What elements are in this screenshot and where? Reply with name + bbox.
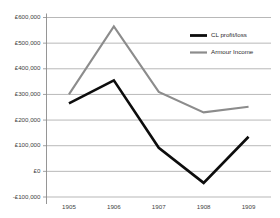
x-tick-label: 1905: [62, 203, 76, 210]
y-tick-label: £600,000: [15, 13, 41, 20]
x-tick-label: 1908: [197, 203, 211, 210]
y-tick-label: £400,000: [15, 64, 41, 71]
y-tick-label: £500,000: [15, 39, 41, 46]
legend-label-2: Armour Income: [211, 48, 254, 55]
x-tick-label: 1906: [107, 203, 121, 210]
legend-label-1: CL profit/loss: [211, 31, 247, 38]
y-tick-label: £300,000: [15, 90, 41, 97]
y-tick-label: £0: [34, 167, 41, 174]
series-line-cl-profit-loss: [69, 80, 249, 183]
x-tick-label: 1907: [152, 203, 166, 210]
y-tick-label: £200,000: [15, 116, 41, 123]
line-chart: £600,000£500,000£400,000£300,000£200,000…: [0, 0, 280, 218]
series-line-armour-income: [69, 26, 249, 112]
x-tick-label: 1909: [242, 203, 256, 210]
y-axis-tick-labels: £600,000£500,000£400,000£300,000£200,000…: [13, 13, 41, 200]
axis-tickmarks: [43, 18, 47, 198]
y-tick-label: £100,000: [15, 141, 41, 148]
x-axis-tick-labels: 19051906190719081909: [62, 203, 256, 210]
y-tick-label: -£100,000: [13, 193, 41, 200]
chart-container: £600,000£500,000£400,000£300,000£200,000…: [0, 0, 280, 218]
